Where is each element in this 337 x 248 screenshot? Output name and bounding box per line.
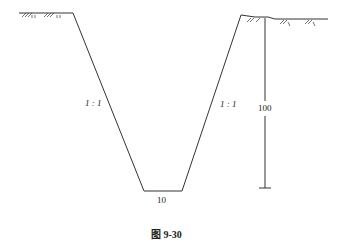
- right-slope-label: 1 : 1: [220, 99, 237, 109]
- excavation-profile: [0, 0, 337, 248]
- diagram-canvas: 1 : 1 1 : 1 100 10 图 9-30: [0, 0, 337, 248]
- depth-label: 100: [258, 103, 272, 113]
- left-slope-label: 1 : 1: [85, 98, 102, 108]
- bottom-width-label: 10: [157, 195, 166, 205]
- figure-caption: 图 9-30: [151, 226, 182, 241]
- left-ground-hatch-icon: [22, 13, 60, 18]
